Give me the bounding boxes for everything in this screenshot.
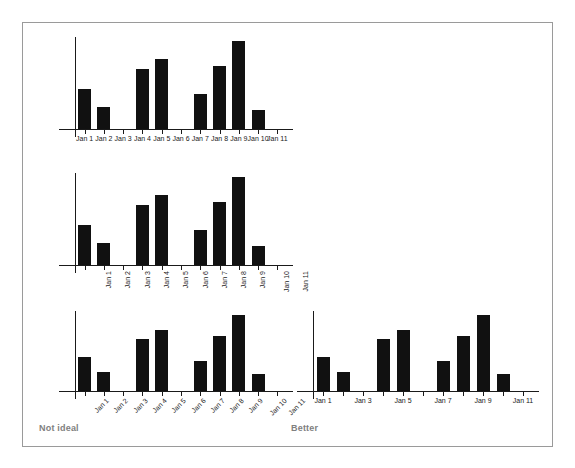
bar xyxy=(97,243,110,265)
chart-thinned-horizontal: Jan 1Jan 3Jan 5Jan 7Jan 9Jan 11 xyxy=(291,311,521,431)
x-axis-tick xyxy=(383,392,384,396)
x-axis-tick xyxy=(220,392,221,396)
bar xyxy=(155,195,168,265)
bar xyxy=(213,336,226,391)
x-axis-tick xyxy=(181,130,182,134)
x-axis-tick xyxy=(85,266,86,270)
x-axis-label: Jan 4 xyxy=(163,271,170,288)
x-axis-tick xyxy=(162,266,163,270)
bar xyxy=(213,66,226,129)
x-axis-tick xyxy=(258,392,259,396)
x-axis-tick xyxy=(200,392,201,396)
bar xyxy=(232,177,245,265)
x-axis-label: Jan 1 xyxy=(93,397,110,414)
x-axis-tick xyxy=(523,392,524,396)
x-axis-tick xyxy=(162,130,163,134)
x-axis-tick xyxy=(142,130,143,134)
x-axis-tick xyxy=(142,266,143,270)
bar xyxy=(78,357,91,391)
bar xyxy=(97,107,110,129)
x-axis-tick xyxy=(200,130,201,134)
bar xyxy=(136,69,149,129)
bar xyxy=(377,339,390,391)
x-axis-label: Jan 11 xyxy=(267,135,288,142)
x-axis-tick xyxy=(162,392,163,396)
x-axis-label: Jan 1 xyxy=(314,397,331,404)
bar xyxy=(317,357,330,391)
bar xyxy=(155,59,168,129)
x-axis-label: Jan 7 xyxy=(209,397,226,414)
x-axis-tick xyxy=(181,266,182,270)
bar xyxy=(194,230,207,265)
x-axis-tick xyxy=(239,392,240,396)
x-axis-tick xyxy=(123,266,124,270)
x-axis-label: Jan 10 xyxy=(283,271,290,292)
x-axis-tick xyxy=(343,392,344,396)
x-axis-tick xyxy=(123,130,124,134)
x-axis-tick xyxy=(423,392,424,396)
x-axis-label: Jan 5 xyxy=(153,135,170,142)
x-axis-tick xyxy=(277,392,278,396)
x-axis-label: Jan 10 xyxy=(268,397,288,417)
x-axis-tick xyxy=(181,392,182,396)
figure-frame: Jan 1Jan 2Jan 3Jan 4Jan 5Jan 6Jan 7Jan 8… xyxy=(22,22,553,447)
x-axis-label: Jan 3 xyxy=(354,397,371,404)
x-axis-label: Jan 2 xyxy=(95,135,112,142)
x-axis-tick xyxy=(123,392,124,396)
x-axis-label: Jan 10 xyxy=(248,135,269,142)
bar xyxy=(232,315,245,391)
bar xyxy=(437,361,450,391)
x-axis-tick xyxy=(85,392,86,396)
bar xyxy=(497,374,510,391)
bar xyxy=(155,330,168,391)
x-axis-tick xyxy=(503,392,504,396)
bar xyxy=(136,339,149,391)
x-axis-label: Jan 1 xyxy=(105,271,112,288)
x-axis-tick xyxy=(104,392,105,396)
x-axis-tick xyxy=(258,130,259,134)
x-axis-label: Jan 8 xyxy=(228,397,245,414)
bar xyxy=(477,315,490,391)
x-axis-label: Jan 5 xyxy=(182,271,189,288)
x-axis-tick xyxy=(323,392,324,396)
x-axis-tick xyxy=(277,266,278,270)
x-axis-label: Jan 6 xyxy=(202,271,209,288)
x-axis-tick xyxy=(239,266,240,270)
x-axis-label: Jan 8 xyxy=(211,135,228,142)
x-axis-tick xyxy=(220,266,221,270)
x-axis-tick xyxy=(220,130,221,134)
chart-rotated-vertical: Jan 1Jan 2Jan 3Jan 4Jan 5Jan 6Jan 7Jan 8… xyxy=(53,173,275,308)
x-axis-label: Jan 3 xyxy=(115,135,132,142)
x-axis-tick xyxy=(277,130,278,134)
x-axis-tick xyxy=(483,392,484,396)
bar xyxy=(97,372,110,391)
caption-not-ideal: Not ideal xyxy=(39,423,79,433)
x-axis-label: Jan 9 xyxy=(259,271,266,288)
x-axis-tick xyxy=(363,392,364,396)
x-axis-label: Jan 6 xyxy=(172,135,189,142)
y-axis-line xyxy=(75,173,76,273)
x-axis-tick xyxy=(463,392,464,396)
x-axis-label: Jan 4 xyxy=(151,397,168,414)
bar xyxy=(213,202,226,265)
bar xyxy=(252,374,265,391)
x-axis-label: Jan 7 xyxy=(192,135,209,142)
x-axis-tick xyxy=(104,266,105,270)
x-axis-label: Jan 5 xyxy=(394,397,411,404)
x-axis-tick xyxy=(239,130,240,134)
x-axis-label: Jan 7 xyxy=(221,271,228,288)
bar xyxy=(252,246,265,265)
x-axis-label: Jan 6 xyxy=(190,397,207,414)
x-axis-label: Jan 7 xyxy=(434,397,451,404)
x-axis-label: Jan 9 xyxy=(474,397,491,404)
x-axis-tick xyxy=(200,266,201,270)
bar xyxy=(457,336,470,391)
x-axis-tick xyxy=(258,266,259,270)
bar xyxy=(194,94,207,129)
x-axis-label: Jan 4 xyxy=(134,135,151,142)
bar xyxy=(397,330,410,391)
y-axis-line xyxy=(75,311,76,399)
x-axis-tick xyxy=(104,130,105,134)
bar xyxy=(78,89,91,129)
x-axis-label: Jan 2 xyxy=(125,271,132,288)
